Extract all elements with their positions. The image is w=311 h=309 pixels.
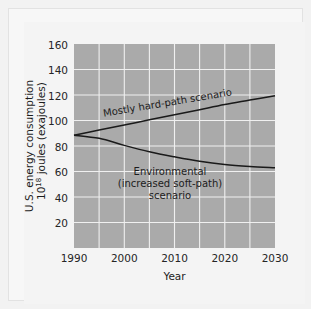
y-axis-title-mantissa: 10 — [35, 187, 47, 200]
series-label-soft-path-line2: (increased soft-path) — [118, 178, 223, 189]
series-label-soft-path-line1: Environmental — [134, 166, 207, 177]
figure-outer-frame: 160 140 120 100 80 60 40 20 1990 2000 20… — [0, 0, 311, 309]
ytick-20: 20 — [55, 217, 68, 229]
ytick-80: 80 — [55, 141, 68, 153]
y-axis-title-line1: U.S. energy consumption — [23, 80, 35, 212]
y-axis-tick-labels: 160 140 120 100 80 60 40 20 — [48, 39, 68, 230]
xtick-2010: 2010 — [161, 252, 188, 264]
energy-consumption-line-chart: 160 140 120 100 80 60 40 20 1990 2000 20… — [0, 0, 311, 309]
ytick-40: 40 — [55, 192, 68, 204]
ytick-60: 60 — [55, 166, 68, 178]
xtick-2030: 2030 — [262, 252, 289, 264]
y-axis-title-line2: 1018 joules (exajoules) — [35, 82, 47, 200]
xtick-2020: 2020 — [211, 252, 238, 264]
ytick-160: 160 — [48, 39, 68, 51]
x-axis-title: Year — [162, 270, 186, 282]
ytick-140: 140 — [48, 64, 68, 76]
ytick-120: 120 — [48, 90, 68, 102]
y-axis-title: U.S. energy consumption 1018 joules (exa… — [23, 80, 47, 212]
ytick-100: 100 — [48, 115, 68, 127]
xtick-2000: 2000 — [111, 252, 138, 264]
series-label-soft-path-line3: scenario — [149, 190, 191, 201]
xtick-1990: 1990 — [61, 252, 88, 264]
y-axis-title-exponent: 18 — [35, 178, 43, 187]
x-axis-tick-labels: 1990 2000 2010 2020 2030 — [61, 252, 289, 264]
y-axis-title-units: joules (exajoules) — [35, 82, 47, 177]
